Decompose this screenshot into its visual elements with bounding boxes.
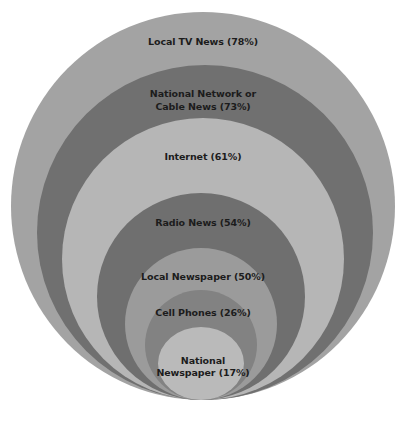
label-internet: Internet (61%)	[0, 150, 406, 163]
label-cell-phones: Cell Phones (26%)	[0, 306, 406, 319]
label-national-newspaper-line2: Newspaper (17%)	[0, 366, 406, 379]
label-national-network-line2: Cable News (73%)	[0, 100, 406, 113]
label-national-network-line1: National Network or	[0, 87, 406, 100]
label-local-newspaper: Local Newspaper (50%)	[0, 270, 406, 283]
label-local-tv-news: Local TV News (78%)	[0, 35, 406, 48]
label-radio-news: Radio News (54%)	[0, 216, 406, 229]
